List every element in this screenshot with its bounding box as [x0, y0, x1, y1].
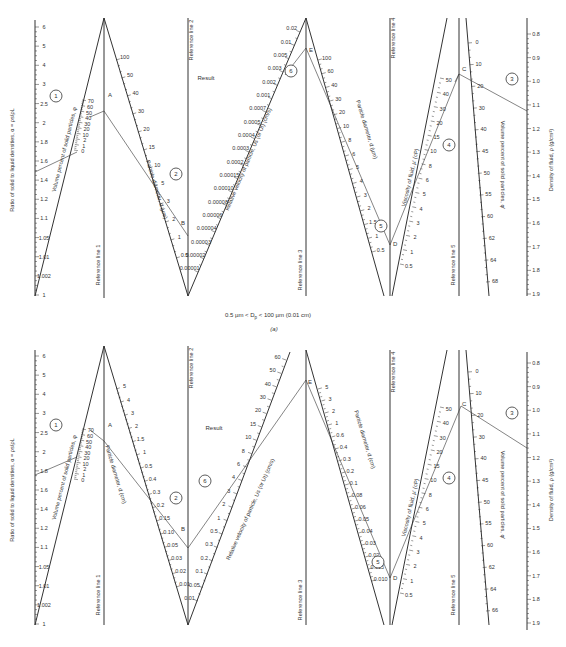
svg-text:30: 30: [335, 96, 341, 102]
svg-text:100: 100: [322, 55, 331, 61]
svg-text:62: 62: [489, 235, 495, 241]
svg-text:5: 5: [123, 383, 126, 389]
svg-text:6: 6: [237, 461, 240, 467]
point-C: C: [462, 401, 467, 407]
svg-text:1.7: 1.7: [532, 244, 540, 250]
svg-text:3: 3: [131, 410, 134, 416]
svg-text:2: 2: [368, 205, 371, 211]
svg-text:2: 2: [413, 234, 416, 240]
svg-text:2: 2: [413, 563, 416, 569]
svg-text:0.5: 0.5: [377, 247, 385, 253]
svg-text:0.6: 0.6: [336, 432, 344, 438]
point-E: E: [308, 379, 312, 385]
svg-text:1.4: 1.4: [532, 502, 540, 508]
svg-text:0.3: 0.3: [153, 489, 161, 495]
alpha-ticks: 65432.521.81.61.41.21.11.051.011.0021: [35, 353, 51, 627]
reference-line-4-label: Reference line 4: [390, 18, 396, 59]
svg-text:68: 68: [492, 278, 498, 284]
svg-text:0.08: 0.08: [352, 492, 363, 498]
svg-text:1.6: 1.6: [532, 220, 540, 226]
svg-text:8: 8: [429, 163, 432, 169]
svg-text:4: 4: [232, 474, 235, 480]
svg-text:3: 3: [416, 220, 419, 226]
svg-text:30: 30: [260, 394, 266, 400]
svg-text:0.00006: 0.00006: [202, 212, 222, 218]
svg-text:20: 20: [143, 126, 149, 132]
svg-text:0.3: 0.3: [205, 541, 213, 547]
svg-text:0.9: 0.9: [532, 384, 540, 390]
diameter2-label: Particle diameter, d (µm): [355, 99, 379, 159]
svg-text:64: 64: [490, 257, 496, 263]
svg-text:1.6: 1.6: [532, 549, 540, 555]
svg-text:0.4: 0.4: [340, 444, 348, 450]
point-D: D: [393, 241, 398, 247]
svg-text:45: 45: [482, 148, 488, 154]
svg-text:1: 1: [143, 449, 146, 455]
svg-text:66: 66: [492, 607, 498, 613]
svg-text:0.05: 0.05: [189, 582, 200, 588]
svg-text:50: 50: [446, 77, 452, 83]
density-ticks: 0.80.91.01.11.21.31.41.51.61.71.81.9: [527, 360, 540, 626]
svg-text:0.03: 0.03: [171, 555, 182, 561]
svg-text:1: 1: [42, 292, 45, 298]
svg-text:2: 2: [135, 423, 138, 429]
reference-line-2-label: Reference line 2: [188, 20, 194, 61]
svg-text:0.0004: 0.0004: [238, 132, 255, 138]
path-step-4: [390, 74, 459, 245]
density-label: Density of fluid, ρ (g/cm³): [548, 459, 554, 521]
point-B: B: [181, 220, 185, 226]
path-step-5: [306, 380, 390, 578]
svg-text:55: 55: [485, 520, 491, 526]
svg-text:0.1: 0.1: [195, 568, 203, 574]
svg-text:1: 1: [410, 578, 413, 584]
panel-a: 65432.521.81.61.41.21.11.051.011.0021 Ra…: [9, 18, 554, 332]
svg-text:1.2: 1.2: [532, 126, 540, 132]
svg-text:1.2: 1.2: [532, 455, 540, 461]
svg-text:2: 2: [332, 408, 335, 414]
result-label: Result: [197, 75, 214, 81]
svg-text:4: 4: [42, 62, 45, 68]
viscosity-label: Viscosity of fluid, µ' (cP): [400, 478, 419, 537]
svg-text:0: 0: [81, 148, 84, 154]
svg-text:6: 6: [426, 506, 429, 512]
svg-text:0.00001: 0.00001: [180, 265, 200, 271]
svg-text:1.3: 1.3: [532, 149, 540, 155]
svg-text:0.010: 0.010: [374, 576, 388, 582]
svg-text:8: 8: [242, 448, 245, 454]
svg-text:0.1: 0.1: [350, 480, 358, 486]
volume-scale-line: [35, 346, 104, 625]
svg-text:40: 40: [265, 381, 271, 387]
svg-text:3: 3: [167, 198, 170, 204]
svg-text:2: 2: [42, 449, 45, 455]
svg-text:40: 40: [443, 91, 449, 97]
svg-text:6: 6: [42, 24, 45, 30]
svg-text:1.0: 1.0: [532, 78, 540, 84]
svg-text:5: 5: [42, 43, 45, 49]
svg-text:60: 60: [327, 68, 333, 74]
volume2-label: Volume percent of solid particles, φ': [500, 451, 506, 539]
svg-text:6: 6: [42, 353, 45, 359]
point-E: E: [309, 47, 313, 53]
svg-text:2: 2: [172, 216, 175, 222]
svg-text:5: 5: [161, 180, 164, 186]
svg-text:10: 10: [154, 162, 160, 168]
reference-line-3-label: Reference line 3: [297, 580, 303, 621]
alpha-axis-label: Ratio of solid to liquid densities, α = …: [9, 108, 15, 211]
svg-text:40: 40: [132, 90, 138, 96]
svg-text:1.4: 1.4: [40, 506, 48, 512]
svg-text:100: 100: [120, 54, 129, 60]
caption-a: 0.5 µm < Dp < 100 µm (0.01 cm): [225, 312, 311, 320]
svg-text:30: 30: [479, 434, 485, 440]
svg-text:0: 0: [475, 39, 478, 45]
svg-text:6: 6: [426, 177, 429, 183]
velocity-scale-line: [188, 352, 290, 625]
diameter-ticks: 54321.510.50.40.30.20.150.100.050.030.02…: [116, 383, 190, 587]
svg-text:0.00003: 0.00003: [191, 239, 211, 245]
volume-scale-line: [35, 18, 104, 296]
svg-text:0.0007: 0.0007: [249, 105, 266, 111]
svg-text:0.001: 0.001: [257, 92, 271, 98]
svg-text:5: 5: [423, 520, 426, 526]
svg-text:0.5: 0.5: [210, 528, 218, 534]
panel-a-label: (a): [270, 326, 277, 332]
panel-b: 65432.521.81.61.41.21.11.051.011.0021 Ra…: [9, 346, 554, 630]
